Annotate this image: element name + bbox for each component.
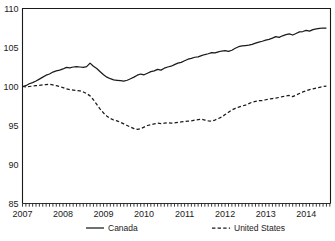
chart-figure: 859095100105110 200720082009201020112012… (0, 0, 335, 241)
series-line-canada (23, 28, 327, 87)
y-tick-label: 85 (8, 199, 18, 209)
y-tick-label: 90 (8, 160, 18, 170)
x-tick-label: 2013 (256, 209, 276, 219)
x-tick-label: 2011 (175, 209, 194, 219)
y-tick-label: 110 (4, 4, 18, 14)
legend-label-canada: Canada (108, 223, 138, 233)
y-tick-label: 105 (3, 43, 18, 53)
plot-frame (23, 9, 331, 204)
series-line-united-states (23, 84, 327, 129)
x-tick-label: 2007 (12, 209, 32, 219)
legend-label-united-states: United States (234, 223, 285, 233)
series-lines (23, 28, 327, 129)
y-tick-label: 95 (8, 121, 18, 131)
y-tick-label: 100 (3, 82, 18, 92)
line-chart: 859095100105110 200720082009201020112012… (0, 0, 335, 241)
x-tick-label: 2008 (53, 209, 73, 219)
x-axis-tick-labels: 20072008200920102011201220132014 (12, 209, 316, 219)
x-axis-minor-ticks (23, 204, 330, 207)
x-tick-label: 2009 (94, 209, 114, 219)
y-axis-tick-labels: 859095100105110 (3, 4, 18, 209)
x-tick-label: 2012 (215, 209, 235, 219)
chart-legend: CanadaUnited States (86, 223, 285, 233)
x-tick-label: 2010 (134, 209, 154, 219)
x-tick-label: 2014 (296, 209, 316, 219)
